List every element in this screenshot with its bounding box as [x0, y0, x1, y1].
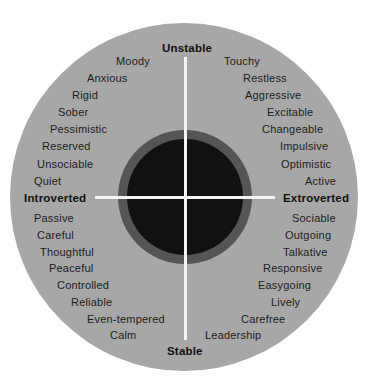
trait-label: Excitable: [267, 106, 313, 119]
trait-label: Carefree: [241, 313, 285, 326]
axis-label-extroverted: Extroverted: [283, 192, 349, 205]
trait-label: Impulsive: [280, 140, 328, 153]
trait-label: Rigid: [72, 89, 98, 102]
trait-label: Even-tempered: [87, 313, 165, 326]
trait-label: Sociable: [292, 212, 336, 225]
trait-label: Pessimistic: [50, 123, 107, 136]
trait-label: Leadership: [205, 329, 261, 342]
trait-label: Optimistic: [281, 158, 331, 171]
trait-label: Restless: [243, 72, 287, 85]
trait-label: Responsive: [263, 262, 322, 275]
trait-label: Reserved: [42, 140, 91, 153]
trait-label: Peaceful: [49, 262, 93, 275]
trait-label: Quiet: [34, 175, 61, 188]
trait-label: Easygoing: [258, 279, 311, 292]
trait-label: Passive: [34, 212, 74, 225]
trait-label: Sober: [58, 106, 88, 119]
horizontal-axis-line: [95, 196, 275, 199]
trait-label: Aggressive: [245, 89, 301, 102]
trait-label: Changeable: [262, 123, 323, 136]
trait-label: Controlled: [57, 279, 109, 292]
axis-label-unstable: Unstable: [162, 42, 212, 55]
trait-label: Calm: [110, 329, 136, 342]
trait-label: Outgoing: [285, 229, 331, 242]
trait-label: Careful: [37, 229, 74, 242]
trait-label: Lively: [271, 296, 300, 309]
trait-label: Moody: [116, 55, 150, 68]
trait-label: Reliable: [71, 296, 112, 309]
personality-dimensions-diagram: Unstable Stable Introverted Extroverted …: [0, 0, 373, 380]
trait-label: Unsociable: [37, 158, 93, 171]
axis-label-introverted: Introverted: [24, 192, 86, 205]
trait-label: Active: [305, 175, 336, 188]
axis-label-stable: Stable: [167, 345, 203, 358]
trait-label: Anxious: [87, 72, 128, 85]
trait-label: Talkative: [283, 246, 328, 259]
trait-label: Touchy: [224, 55, 260, 68]
trait-label: Thoughtful: [40, 246, 94, 259]
